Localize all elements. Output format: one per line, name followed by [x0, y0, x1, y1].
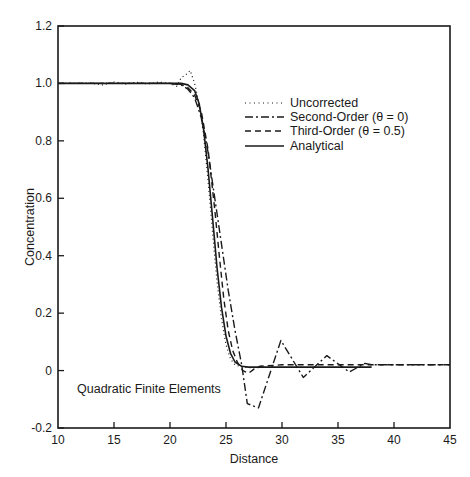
x-axis-title: Distance: [230, 452, 279, 466]
y-tick-label: 0.8: [35, 134, 52, 148]
y-axis-title: Concentration: [23, 188, 37, 266]
annotation-quadratic-finite-elements: Quadratic Finite Elements: [77, 382, 221, 396]
y-tick-label: 1.0: [35, 76, 52, 90]
y-tick-label: 0.4: [35, 249, 52, 263]
y-tick-label: 1.2: [35, 19, 52, 33]
x-axis-ticks: 1015202530354045: [51, 422, 457, 447]
legend-label-third-order: Third-Order (θ = 0.5): [290, 124, 405, 138]
x-tick-label: 45: [443, 433, 457, 447]
x-tick-label: 15: [107, 433, 121, 447]
legend: Uncorrected Second-Order (θ = 0) Third-O…: [245, 96, 408, 153]
x-tick-label: 10: [51, 433, 65, 447]
legend-label-analytical: Analytical: [290, 139, 344, 153]
legend-label-uncorrected: Uncorrected: [290, 96, 358, 110]
legend-label-second-order: Second-Order (θ = 0): [290, 110, 408, 124]
y-tick-label: 0: [45, 364, 52, 378]
x-tick-label: 20: [163, 433, 177, 447]
x-tick-label: 30: [275, 433, 289, 447]
x-tick-label: 25: [219, 433, 233, 447]
y-tick-label: -0.2: [31, 421, 52, 435]
x-tick-label: 35: [331, 433, 345, 447]
chart: -0.200.20.40.60.81.01.2 1015202530354045…: [0, 0, 470, 477]
series-dotted-line: [58, 71, 260, 368]
y-tick-label: 0.6: [35, 191, 52, 205]
y-tick-label: 0.2: [35, 306, 52, 320]
x-tick-label: 40: [387, 433, 401, 447]
